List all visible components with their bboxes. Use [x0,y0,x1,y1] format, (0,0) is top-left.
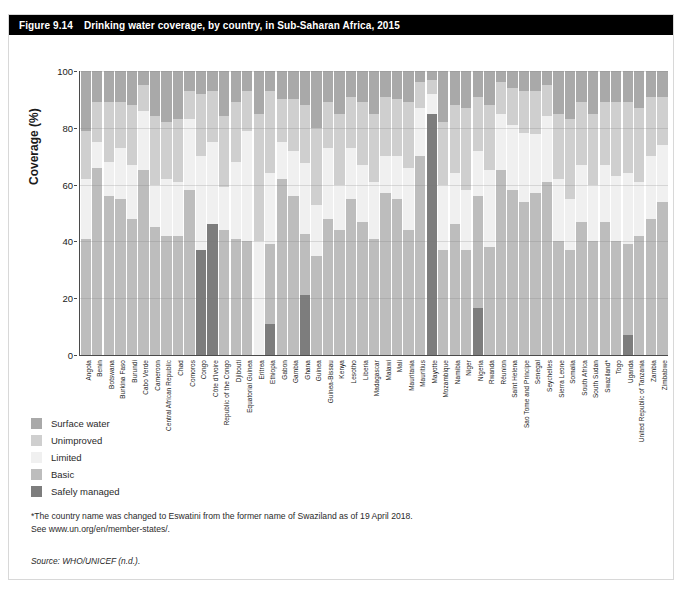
bar-segment [611,71,621,102]
legend-item: Unimproved [31,432,291,449]
y-axis-ticks: 020406080100 [49,71,77,355]
bar-segment [542,182,552,355]
bar-segment [553,71,563,114]
bar-segment [219,116,229,187]
bar-segment [346,148,356,199]
bar-segment [184,91,194,119]
x-label-cell: Zimbabwe [656,358,668,463]
bar-segment [219,187,229,230]
bar-segment [519,71,529,91]
bar-column [195,71,207,355]
bar-column [357,71,369,355]
bar-segment [473,196,483,307]
bar-segment [196,250,206,355]
bar-segment [138,85,148,111]
bar-segment [161,236,171,355]
bar-column [172,71,184,355]
bar-segment [288,99,298,150]
x-label-cell: Senegal [529,358,541,463]
y-tick-label: 100 [57,66,73,77]
legend-swatch-icon [31,469,42,480]
bars-container [80,71,668,355]
bar-segment [300,105,310,163]
bar-column [149,71,161,355]
bar-segment [231,71,241,102]
x-label-cell: Lesotho [344,358,356,463]
legend-swatch-icon [31,435,42,446]
bar-segment [427,71,437,80]
x-label-cell: Guinea [310,358,322,463]
bar-segment [323,148,333,219]
bar-segment [173,182,183,236]
y-tick-mark [74,241,77,242]
bar-column [345,71,357,355]
bar-column [610,71,622,355]
bar-segment [415,82,425,108]
chart-region: Coverage (%) 020406080100 AngolaBeninBot… [9,35,673,465]
bar-column [530,71,542,355]
x-label-cell: Mauritania [402,358,414,463]
bar-segment [323,102,333,147]
legend-swatch-icon [31,486,42,497]
bar-column [92,71,104,355]
bar-segment [277,179,287,355]
bar-segment [473,151,483,196]
x-label-cell: Mayotte [425,358,437,463]
bar-segment [173,119,183,181]
bar-segment [380,156,390,193]
bar-segment [611,176,621,241]
bar-segment [530,91,540,134]
bar-segment [311,71,321,128]
bar-segment [115,102,125,147]
bar-segment [161,179,171,236]
figure-notes: *The country name was changed to Eswatin… [31,510,631,535]
bar-segment [450,173,460,224]
x-label-cell: Madagascar [367,358,379,463]
bar-segment [623,335,633,355]
bar-segment [553,179,563,241]
bar-segment [496,82,506,113]
bar-segment [611,102,621,176]
x-label-cell: Sierra Leone [552,358,564,463]
x-label-cell: Namibia [448,358,460,463]
bar-segment [496,170,506,355]
bar-segment [242,131,252,242]
bar-segment [484,105,494,170]
bar-segment [634,236,644,355]
bar-column [207,71,219,355]
bar-segment [265,244,275,324]
y-tick-label: 0 [68,350,73,361]
bar-segment [600,222,610,355]
bar-segment [127,105,137,165]
legend-item: Safely managed [31,483,291,500]
bar-segment [519,202,529,355]
bar-segment [357,165,367,222]
bar-segment [104,162,114,196]
bar-segment [588,114,598,185]
bar-segment [277,142,287,179]
bar-segment [300,234,310,294]
bar-column [541,71,553,355]
x-label-cell: Saint Helena [506,358,518,463]
bar-segment [207,142,217,224]
bar-column [449,71,461,355]
bar-segment [231,162,241,239]
bar-column [230,71,242,355]
legend-label: Unimproved [51,435,102,446]
bar-segment [519,91,529,134]
bar-segment [300,163,310,235]
bar-segment [207,224,217,355]
bar-column [334,71,346,355]
bar-segment [415,71,425,82]
legend-label: Surface water [51,418,110,429]
x-label-cell: Mozambique [436,358,448,463]
legend-item: Surface water [31,415,291,432]
bar-segment [392,71,402,99]
bar-segment [288,151,298,196]
bar-column [80,71,92,355]
bar-segment [392,199,402,355]
bar-segment [300,71,310,105]
bar-segment [565,199,575,250]
figure-title: Drinking water coverage, by country, in … [84,20,400,31]
bar-segment [92,142,102,168]
